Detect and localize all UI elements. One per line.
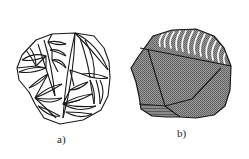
lens [35, 98, 62, 99]
lens [29, 74, 48, 88]
panel-a-lenticular-grain [17, 33, 110, 124]
seg [48, 34, 58, 72]
panel-label-b: b) [177, 127, 186, 139]
lens [96, 80, 100, 104]
panel-b-shaded-grain [130, 29, 231, 120]
panel-label-a: a) [57, 133, 66, 145]
figure [0, 0, 249, 159]
